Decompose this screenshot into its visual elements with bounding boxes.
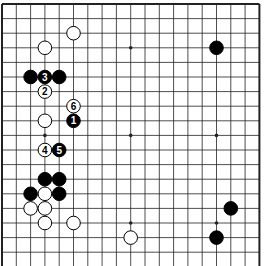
- white-stone[interactable]: [38, 216, 52, 230]
- stone-circle: [124, 231, 138, 245]
- black-stone[interactable]: [52, 172, 66, 186]
- white-stone-move-4[interactable]: 4: [38, 143, 52, 157]
- stone-circle: [24, 202, 38, 216]
- white-stone-move-2[interactable]: 2: [38, 85, 52, 99]
- black-stone[interactable]: [210, 231, 224, 245]
- stone-circle: [52, 172, 66, 186]
- stone-circle: [24, 187, 38, 201]
- stone-circle: [52, 187, 66, 201]
- move-number: 6: [71, 101, 77, 112]
- white-stone[interactable]: [67, 216, 81, 230]
- stone-circle: [38, 172, 52, 186]
- black-stone[interactable]: [24, 187, 38, 201]
- black-stone-move-3[interactable]: 3: [38, 70, 52, 84]
- stone-circle: [38, 114, 52, 128]
- white-stone-move-6[interactable]: 6: [67, 99, 81, 113]
- black-stone[interactable]: [38, 172, 52, 186]
- stone-circle: [38, 187, 52, 201]
- stone-circle: [210, 41, 224, 55]
- stone-circle: [38, 202, 52, 216]
- stone-circle: [210, 231, 224, 245]
- move-number: 5: [56, 145, 62, 156]
- stone-circle: [67, 216, 81, 230]
- white-stone[interactable]: [67, 26, 81, 40]
- stone-circle: [224, 202, 238, 216]
- white-stone[interactable]: [24, 202, 38, 216]
- move-number: 1: [71, 115, 77, 126]
- black-stone[interactable]: [224, 202, 238, 216]
- move-number: 3: [42, 72, 48, 83]
- white-stone[interactable]: [38, 187, 52, 201]
- star-point: [129, 221, 133, 225]
- stone-circle: [38, 41, 52, 55]
- stone-circle: [38, 216, 52, 230]
- white-stone[interactable]: [38, 41, 52, 55]
- star-point: [129, 134, 133, 138]
- black-stone-move-5[interactable]: 5: [52, 143, 66, 157]
- black-stone[interactable]: [52, 70, 66, 84]
- white-stone[interactable]: [124, 231, 138, 245]
- move-number: 2: [42, 86, 48, 97]
- star-point: [215, 134, 219, 138]
- black-stone-move-1[interactable]: 1: [67, 114, 81, 128]
- stone-circle: [67, 26, 81, 40]
- black-stone[interactable]: [210, 41, 224, 55]
- star-point: [129, 46, 133, 50]
- stone-circle: [52, 70, 66, 84]
- stone-circle: [24, 70, 38, 84]
- move-number: 4: [42, 145, 48, 156]
- white-stone[interactable]: [38, 202, 52, 216]
- black-stone[interactable]: [24, 70, 38, 84]
- star-point: [43, 134, 47, 138]
- star-point: [215, 221, 219, 225]
- white-stone[interactable]: [38, 114, 52, 128]
- black-stone[interactable]: [52, 187, 66, 201]
- go-board[interactable]: 326145: [0, 0, 264, 266]
